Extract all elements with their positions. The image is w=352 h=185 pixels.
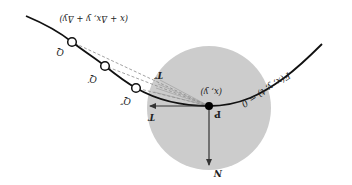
sample-point-q-double-prime-label: Q″ [120, 96, 131, 106]
secant-limit-label: T′ [153, 70, 163, 80]
sample-point-q-prime-label: Q′ [88, 74, 97, 84]
diagram-canvas: F(x, y, t) = 0 (x + Δx, y + Δy) (x, y) P… [0, 0, 352, 185]
point-p-label: P [214, 109, 221, 119]
sample-point-q-prime [101, 62, 110, 71]
far-point-coord-label: (x + Δx, y + Δy) [59, 14, 128, 24]
normal-label: N [213, 168, 223, 178]
sample-point-q-label: Q [56, 47, 64, 57]
point-coord-label: (x, y) [200, 87, 222, 97]
point-p [205, 102, 213, 110]
diagram-svg: F(x, y, t) = 0 (x + Δx, y + Δy) (x, y) P… [0, 0, 352, 185]
sample-point-q-double-prime [132, 84, 141, 93]
sample-point-q [68, 38, 77, 47]
